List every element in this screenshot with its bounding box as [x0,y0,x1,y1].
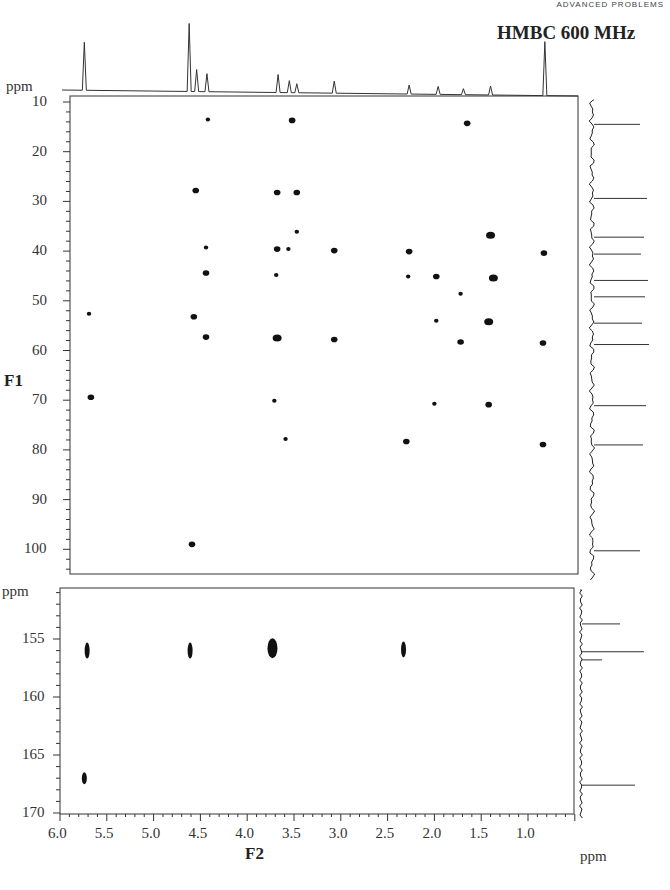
x-tick-label: 6.0 [48,825,67,842]
upper-y-tick-label: 80 [32,441,47,458]
x-tick-label: 3.5 [282,825,301,842]
upper-y-tick-label: 40 [32,242,47,259]
x-tick-label: 1.0 [516,825,535,842]
cross-peaks [82,117,547,784]
axis-ticks [53,102,575,821]
upper-y-unit: ppm [6,78,33,95]
upper-panel-frame [70,96,578,574]
upper-y-tick-label: 90 [32,491,47,508]
hmbc-spectrum [0,0,670,890]
lower-y-tick-label: 165 [22,746,45,763]
running-head: ADVANCED PROBLEMS [556,0,664,9]
x-tick-label: 4.0 [235,825,254,842]
chart-title: HMBC 600 MHz [497,22,635,44]
x-tick-label: 2.5 [376,825,395,842]
y-axis-label: F1 [4,371,23,391]
x-tick-label: 5.5 [95,825,114,842]
upper-y-tick-label: 70 [32,391,47,408]
lower-y-tick-label: 155 [22,630,45,647]
upper-y-tick-label: 30 [32,192,47,209]
x-tick-label: 2.0 [422,825,441,842]
upper-y-tick-label: 100 [24,540,47,557]
upper-y-tick-label: 10 [32,93,47,110]
lower-y-tick-label: 160 [22,688,45,705]
f1-projection-spectrum [580,100,649,818]
x-tick-label: 3.0 [329,825,348,842]
lower-y-unit: ppm [2,583,29,600]
upper-y-tick-label: 50 [32,292,47,309]
upper-y-tick-label: 60 [32,342,47,359]
x-tick-label: 4.5 [188,825,207,842]
x-unit: ppm [580,848,607,865]
x-tick-label: 1.5 [469,825,488,842]
lower-panel-frame [60,588,574,814]
x-axis-label: F2 [245,844,264,864]
lower-y-tick-label: 170 [22,804,45,821]
x-tick-label: 5.0 [142,825,161,842]
upper-y-tick-label: 20 [32,143,47,160]
